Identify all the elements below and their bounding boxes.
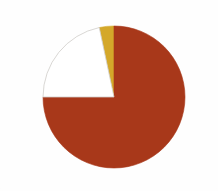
pie-chart-figure <box>0 0 218 191</box>
pie-chart-svg <box>0 0 218 191</box>
